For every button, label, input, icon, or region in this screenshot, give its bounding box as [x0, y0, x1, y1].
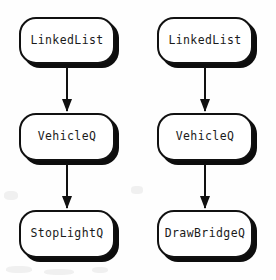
- node-label: LinkedList: [30, 35, 103, 47]
- node-label: VehicleQ: [176, 131, 235, 143]
- node-label: DrawBridgeQ: [165, 228, 246, 240]
- node-label: LinkedList: [168, 35, 241, 47]
- arrow-head-icon: [62, 196, 72, 209]
- node-linkedlist-left[interactable]: LinkedList: [19, 17, 115, 64]
- chain-stoplight: LinkedList VehicleQ StopLightQ: [19, 0, 119, 280]
- arrow-head-icon: [200, 196, 210, 209]
- node-label: StopLightQ: [30, 228, 103, 240]
- arrow-vehicleq-to-drawbridgeq: [202, 164, 208, 208]
- node-vehicleq-right[interactable]: VehicleQ: [157, 113, 253, 161]
- arrow-linkedlist-to-vehicleq-left: [64, 67, 70, 111]
- node-label: VehicleQ: [38, 131, 97, 143]
- scan-artifact: [4, 191, 18, 200]
- node-linkedlist-right[interactable]: LinkedList: [157, 17, 253, 64]
- arrow-head-icon: [200, 99, 210, 112]
- arrow-vehicleq-to-stoplightq: [64, 164, 70, 208]
- scan-artifact: [131, 186, 143, 194]
- chain-drawbridge: LinkedList VehicleQ DrawBridgeQ: [157, 0, 257, 280]
- arrow-linkedlist-to-vehicleq-right: [202, 67, 208, 111]
- node-stoplightq[interactable]: StopLightQ: [19, 210, 115, 258]
- node-vehicleq-left[interactable]: VehicleQ: [19, 113, 115, 161]
- arrow-head-icon: [62, 99, 72, 112]
- diagram-canvas: LinkedList VehicleQ StopLightQ LinkedLis…: [0, 0, 276, 280]
- node-drawbridgeq[interactable]: DrawBridgeQ: [157, 210, 253, 258]
